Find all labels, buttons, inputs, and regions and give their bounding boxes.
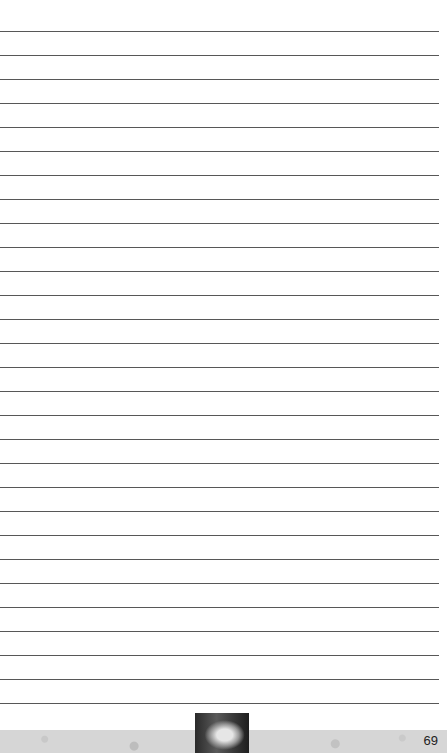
ruled-line [0,295,439,296]
ruled-line [0,319,439,320]
ruled-line [0,679,439,680]
ruled-line [0,535,439,536]
ruled-line [0,55,439,56]
ruled-line [0,655,439,656]
ruled-line [0,487,439,488]
ruled-line [0,223,439,224]
ruled-line [0,631,439,632]
footer-photo-thumbnail [195,713,249,753]
ruled-line [0,247,439,248]
ruled-line [0,583,439,584]
ruled-line [0,79,439,80]
ruled-line [0,151,439,152]
ruled-line [0,463,439,464]
ruled-line [0,103,439,104]
ruled-lines [0,0,447,720]
ruled-line [0,199,439,200]
ruled-line [0,439,439,440]
ruled-line [0,391,439,392]
page-number: 69 [424,733,438,748]
ruled-line [0,271,439,272]
ruled-line [0,559,439,560]
ruled-line [0,31,439,32]
ruled-line [0,343,439,344]
ruled-line [0,607,439,608]
ruled-line [0,511,439,512]
ruled-line [0,127,439,128]
ruled-line [0,175,439,176]
ruled-line [0,367,439,368]
ruled-line [0,703,439,704]
ruled-line [0,415,439,416]
